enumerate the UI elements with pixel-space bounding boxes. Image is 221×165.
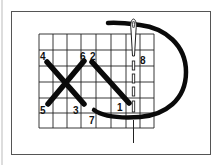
cross-stitch-diagram: 4 6 2 5 3 7 1 8 xyxy=(0,0,221,165)
label-4: 4 xyxy=(40,51,46,62)
label-3: 3 xyxy=(73,105,79,116)
label-1: 1 xyxy=(117,102,123,113)
label-2: 2 xyxy=(90,51,96,62)
label-6: 6 xyxy=(80,51,86,62)
needle-icon xyxy=(131,19,137,143)
label-8: 8 xyxy=(140,55,146,66)
stitch-2-1 xyxy=(92,62,129,103)
label-7: 7 xyxy=(89,115,95,126)
label-5: 5 xyxy=(40,105,46,116)
